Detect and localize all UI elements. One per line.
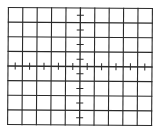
horizontal-grid-line	[8, 95, 152, 96]
graticule-grid	[8, 7, 153, 125]
horizontal-grid-line	[8, 110, 152, 111]
oscilloscope-graticule	[0, 0, 159, 131]
horizontal-grid-line	[8, 37, 152, 38]
horizontal-grid-line	[8, 7, 152, 8]
horizontal-grid-line	[8, 51, 152, 52]
horizontal-grid-line	[8, 22, 152, 23]
horizontal-grid-line	[8, 81, 152, 82]
horizontal-grid-line	[8, 124, 152, 125]
